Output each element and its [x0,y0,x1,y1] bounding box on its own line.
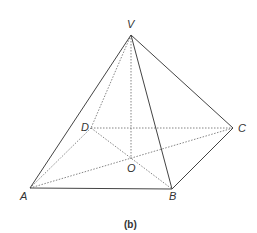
diagonal-D-B [91,128,172,189]
edge-V-B [131,35,172,189]
pyramid-diagram: V D C O A B (b) [0,0,257,233]
label-O: O [127,162,136,174]
edge-V-A [30,35,131,188]
label-C: C [238,122,246,134]
pyramid-figure: V D C O A B (b) [0,0,257,233]
figure-caption: (b) [124,219,137,230]
label-B: B [169,190,176,202]
label-V: V [127,18,136,30]
edge-A-D [30,128,91,188]
edge-A-B [30,188,172,189]
edge-B-C [172,128,233,189]
edge-V-C [131,35,233,128]
label-D: D [81,121,89,133]
label-A: A [19,190,27,202]
edge-V-D [91,35,131,128]
